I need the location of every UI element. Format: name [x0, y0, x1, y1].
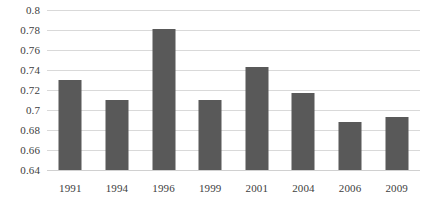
x-tick-label: 1994 — [106, 183, 128, 194]
y-tick-label: 0.76 — [20, 45, 40, 56]
x-tick-label: 2004 — [292, 183, 314, 194]
y-tick-label: 0.64 — [20, 165, 40, 176]
y-tick-label: 0.72 — [20, 85, 40, 96]
x-tick-label: 1996 — [152, 183, 174, 194]
x-tick-label: 1999 — [199, 183, 221, 194]
y-tick-label: 0.68 — [20, 125, 40, 136]
y-tick-label: 0.66 — [20, 145, 40, 156]
y-tick-label: 0.7 — [26, 105, 40, 116]
y-tick-label: 0.78 — [20, 25, 40, 36]
x-tick-label: 2006 — [339, 183, 361, 194]
x-axis: 19911994199619992001200420062009 — [47, 0, 420, 212]
x-tick-label: 1991 — [59, 183, 81, 194]
x-tick-label: 2009 — [385, 183, 407, 194]
x-tick-label: 2001 — [246, 183, 268, 194]
plot-area: 0.80.780.760.740.720.70.680.660.64 19911… — [0, 0, 423, 212]
y-axis: 0.80.780.760.740.720.70.680.660.64 — [0, 0, 46, 212]
y-tick-label: 0.74 — [20, 65, 40, 76]
y-tick-label: 0.8 — [26, 5, 40, 16]
bar-chart: 0.80.780.760.740.720.70.680.660.64 19911… — [0, 0, 423, 212]
